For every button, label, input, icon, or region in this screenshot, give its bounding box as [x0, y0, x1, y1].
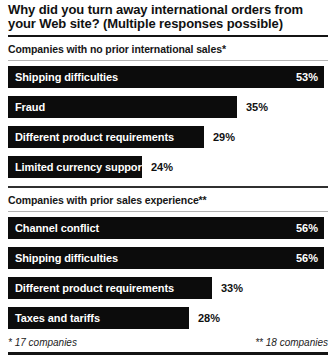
bar-category-label: Fraud — [8, 101, 45, 113]
bar-row: Different product requirements33% — [8, 277, 328, 299]
bar-value-label: 35% — [246, 101, 268, 113]
bar: Shipping difficulties53% — [8, 66, 324, 88]
bar-value-label: 24% — [151, 161, 173, 173]
bar: Limited currency support — [8, 156, 142, 178]
section-divider — [8, 186, 328, 188]
bar-value-label: 56% — [296, 252, 324, 264]
title-divider — [8, 35, 328, 37]
bars-prior-sales: Channel conflict56%Shipping difficulties… — [8, 217, 328, 329]
bar-row: Shipping difficulties56% — [8, 247, 328, 269]
footnote-right: ** 18 companies — [255, 337, 328, 348]
bar-category-label: Taxes and tariffs — [8, 312, 100, 324]
bar-row: Limited currency support24% — [8, 156, 328, 178]
bar-row: Fraud35% — [8, 96, 328, 118]
footnotes: * 17 companies ** 18 companies — [8, 337, 328, 348]
section-prior-sales: Companies with prior sales experience** … — [8, 194, 328, 329]
bar-category-label: Shipping difficulties — [8, 252, 118, 264]
bar: Taxes and tariffs — [8, 307, 189, 329]
bar-value-label: 33% — [221, 282, 243, 294]
bar-row: Different product requirements29% — [8, 126, 328, 148]
bars-no-prior-sales: Shipping difficulties53%Fraud35%Differen… — [8, 66, 328, 178]
bar-value-label: 28% — [198, 312, 220, 324]
section-no-prior-sales: Companies with no prior international sa… — [8, 43, 328, 178]
bar: Channel conflict56% — [8, 217, 324, 239]
bar-value-label: 29% — [213, 131, 235, 143]
bar-category-label: Different product requirements — [8, 282, 174, 294]
bar-value-label: 53% — [296, 71, 324, 83]
section-header-no-prior-sales: Companies with no prior international sa… — [8, 43, 328, 61]
chart-container: Why did you turn away international orde… — [0, 0, 336, 355]
bar-category-label: Limited currency support — [8, 161, 145, 173]
chart-title: Why did you turn away international orde… — [8, 3, 328, 31]
section-header-prior-sales: Companies with prior sales experience** — [8, 194, 328, 212]
bar: Different product requirements — [8, 277, 212, 299]
bar-value-label: 56% — [296, 222, 324, 234]
bar-row: Channel conflict56% — [8, 217, 328, 239]
bar-category-label: Different product requirements — [8, 131, 174, 143]
bar-row: Shipping difficulties53% — [8, 66, 328, 88]
bar-category-label: Channel conflict — [8, 222, 99, 234]
bar-category-label: Shipping difficulties — [8, 71, 118, 83]
footnote-left: * 17 companies — [8, 337, 77, 348]
bar: Different product requirements — [8, 126, 204, 148]
bar: Fraud — [8, 96, 237, 118]
bar: Shipping difficulties56% — [8, 247, 324, 269]
bar-row: Taxes and tariffs28% — [8, 307, 328, 329]
